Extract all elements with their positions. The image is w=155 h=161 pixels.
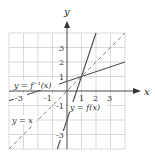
y-axis-label: y	[63, 6, 70, 17]
f-inverse-label: y = f⁻¹(x)	[13, 81, 51, 90]
svg-text:3: 3	[107, 94, 112, 103]
function-inverse-graph: x y -3 -1 1 2 3 3 2 1 -1 -3 y = f⁻¹(x) y…	[0, 0, 155, 161]
svg-text:-1: -1	[44, 94, 52, 103]
f-label: y = f(x)	[69, 103, 100, 112]
y-axis-arrow-icon	[64, 21, 70, 28]
x-axis-arrow-icon	[133, 88, 141, 94]
svg-text:1: 1	[59, 73, 64, 82]
svg-text:3: 3	[59, 44, 64, 53]
svg-text:2: 2	[59, 58, 64, 67]
identity-label: y = x	[11, 116, 33, 125]
svg-text:-1: -1	[56, 102, 64, 111]
svg-text:-3: -3	[15, 94, 23, 103]
svg-text:1: 1	[79, 94, 84, 103]
x-axis-label: x	[144, 86, 150, 97]
svg-text:2: 2	[93, 94, 98, 103]
svg-text:-3: -3	[56, 131, 64, 140]
